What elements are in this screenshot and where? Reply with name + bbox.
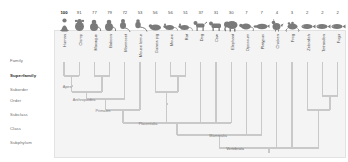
tip-branch-elephant <box>231 62 232 123</box>
conservation-value-chicken: 4 <box>270 10 284 15</box>
rank-label-superfamily: Superfamily <box>10 73 36 78</box>
rank-label-family: Family <box>10 58 23 63</box>
species-label-marmoset: Marmoset <box>123 34 128 52</box>
clade-label-mammalia: Mammalia <box>209 134 227 138</box>
conservation-value-baboon: 79 <box>103 10 117 15</box>
branch-primates <box>122 110 123 123</box>
species-label-elephant: Elephant <box>230 34 235 50</box>
conservation-value-dog: 37 <box>194 10 208 15</box>
rank-label-order: Order <box>10 98 21 103</box>
conservation-value-platypus: 7 <box>255 10 269 15</box>
species-label-macaque: Macaque <box>93 34 98 50</box>
branch-tetraodontidae <box>329 96 330 110</box>
branch-teleostei <box>318 110 319 148</box>
clade-label-anthropoidea: Anthropoidea <box>73 98 96 102</box>
tip-branch-baboon <box>109 62 110 76</box>
conservation-value-rat: 51 <box>179 10 193 15</box>
branch-cercopithecidae <box>101 76 102 92</box>
tip-branch-frog <box>291 62 292 148</box>
tip-branch-cow <box>215 62 216 123</box>
tip-branch-mouse-lemur <box>139 62 140 110</box>
species-label-mouse-lemur: Mouse lemur <box>138 34 143 57</box>
conservation-value-marmoset: 72 <box>118 10 132 15</box>
species-label-tetraodon: Tetraodon <box>321 34 326 52</box>
species-label-platypus: Platypus <box>260 34 265 49</box>
tip-branch-human <box>63 62 64 76</box>
rank-label-subphylum: Subphylum <box>10 140 32 145</box>
tip-branch-platypus <box>261 62 262 135</box>
species-label-frog: Frog <box>290 34 295 42</box>
clade-label-placentalia: Placentalia <box>139 122 158 126</box>
species-label-chimp: Chimp <box>78 34 83 46</box>
species-label-guinea-pig: Guinea pig <box>154 34 159 53</box>
species-label-zebrafish: Zebrafish <box>306 34 311 51</box>
tip-branch-opossum <box>246 62 247 135</box>
tip-branch-chicken <box>276 62 277 148</box>
species-label-rat: Rat <box>184 34 189 40</box>
conservation-value-fugu: 2 <box>331 10 345 15</box>
tip-branch-rat <box>185 62 186 76</box>
rank-label-class: Class <box>10 126 21 131</box>
branch-rodentia <box>166 92 167 104</box>
conservation-value-human: 100 <box>57 10 71 15</box>
branch-placentalia <box>176 123 177 135</box>
taxonomic-rank-column: Family Superfamily Suborder Order Subcla… <box>0 58 54 158</box>
clade-label-vertebrata: Vertebrata <box>226 147 244 151</box>
species-label-human: Human <box>62 34 67 47</box>
species-label-dog: Dog <box>199 34 204 41</box>
species-label-opossum: Opossum <box>245 34 250 51</box>
branch-muridae <box>177 76 178 92</box>
clade-label-primates: Primates <box>96 109 111 113</box>
tip-branch-marmoset <box>124 62 125 99</box>
conservation-value-tetraodon: 2 <box>315 10 329 15</box>
branch-glires <box>166 104 167 123</box>
conservation-value-zebrafish: 2 <box>300 10 314 15</box>
conservation-value-mouse: 56 <box>163 10 177 15</box>
conservation-value-mouse-lemur: 53 <box>133 10 147 15</box>
tip-branch-dog <box>200 62 201 123</box>
rank-label-suborder: Suborder <box>10 87 28 92</box>
fugu-icon <box>329 17 346 32</box>
phylogenetic-tree-figure: Family Superfamily Suborder Order Subcla… <box>0 0 348 162</box>
conservation-value-guinea-pig: 56 <box>148 10 162 15</box>
tip-branch-fugu <box>337 62 338 96</box>
tip-branch-macaque <box>94 62 95 76</box>
conservation-value-frog: 3 <box>285 10 299 15</box>
tip-branch-zebrafish <box>307 62 308 110</box>
conservation-value-chimp: 91 <box>72 10 86 15</box>
tip-branch-mouse <box>170 62 171 76</box>
species-label-cow: Cow <box>214 34 219 42</box>
tip-branch-tetraodon <box>322 62 323 96</box>
tip-branch-chimp <box>79 62 80 76</box>
conservation-value-elephant: 30 <box>224 10 238 15</box>
branch-root <box>268 148 269 153</box>
species-label-fugu: Fugu <box>336 34 341 43</box>
clade-label-apes: Apes <box>63 85 72 89</box>
species-label-mouse: Mouse <box>169 34 174 46</box>
species-label-chicken: Chicken <box>275 34 280 48</box>
conservation-value-macaque: 77 <box>87 10 101 15</box>
conservation-value-cow: 31 <box>209 10 223 15</box>
rank-label-subclass: Subclass <box>10 112 28 117</box>
tip-branch-guinea-pig <box>155 62 156 92</box>
species-label-baboon: Baboon <box>108 34 113 48</box>
conservation-value-opossum: 7 <box>239 10 253 15</box>
